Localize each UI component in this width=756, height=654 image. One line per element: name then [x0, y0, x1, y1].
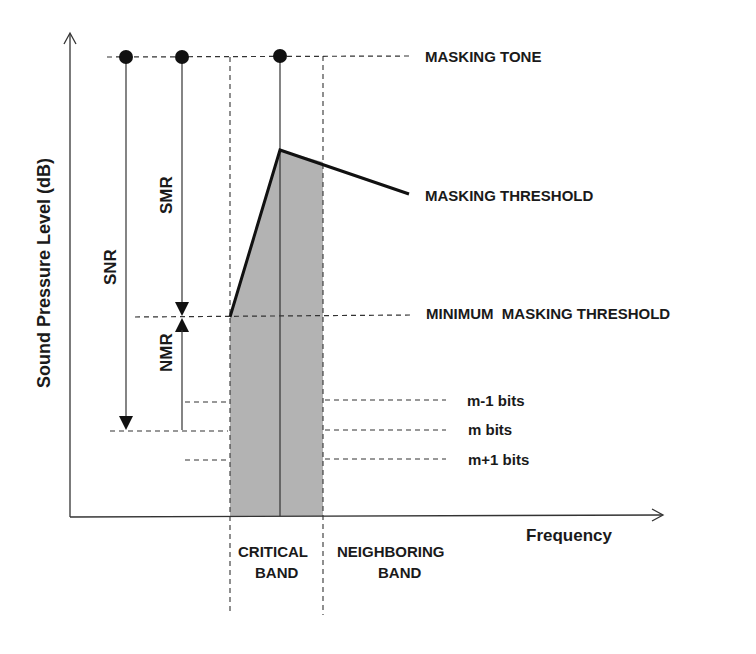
x-axis-label: Frequency — [526, 526, 613, 545]
critical-band-label-line1: CRITICAL — [238, 543, 308, 560]
nmr-arrow-icon — [175, 318, 189, 332]
neighboring-band-label-line1: NEIGHBORING — [337, 543, 445, 560]
snr-label: SNR — [101, 249, 120, 285]
critical-band-fill — [230, 150, 323, 516]
x-axis — [70, 515, 662, 517]
masking-tone-dot-smr — [175, 50, 189, 64]
m-plus-1-bits-label: m+1 bits — [468, 451, 529, 468]
masking-tone-line — [107, 56, 410, 57]
smr-label: SMR — [157, 176, 176, 214]
masking-tone-dot — [273, 49, 287, 63]
m-bits-label: m bits — [468, 421, 512, 438]
masking-tone-label: MASKING TONE — [425, 48, 541, 65]
m-minus-1-bits-label: m-1 bits — [467, 392, 525, 409]
neighboring-band-label-line2: BAND — [378, 564, 421, 581]
masking-diagram: MASKING TONE MASKING THRESHOLD MINIMUM M… — [0, 0, 756, 654]
snr-arrow-icon — [119, 416, 133, 430]
critical-band-label-line2: BAND — [255, 564, 298, 581]
y-axis-label: Sound Pressure Level (dB) — [34, 158, 54, 388]
masking-tone-dot-snr — [119, 50, 133, 64]
masking-threshold-label: MASKING THRESHOLD — [425, 187, 594, 204]
smr-arrow-icon — [175, 302, 189, 316]
minimum-masking-threshold-label: MINIMUM MASKING THRESHOLD — [426, 305, 670, 322]
nmr-label: NMR — [157, 333, 176, 372]
